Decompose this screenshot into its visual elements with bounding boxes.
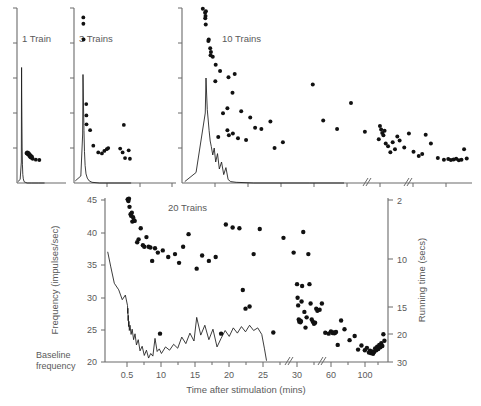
data-point: [429, 141, 433, 145]
data-point: [144, 235, 148, 239]
data-point: [299, 319, 303, 323]
data-point: [402, 145, 406, 149]
xtick-100: 100: [357, 370, 372, 380]
xtick-25: 25: [258, 370, 268, 380]
x-axis-title: Time after stimulation (mins): [186, 384, 305, 395]
panel4-right-y-ticklabels: 2 10 15 20 30: [397, 196, 407, 368]
panel-10-trains: 10 Trains: [178, 7, 472, 187]
rtick-30: 30: [397, 358, 407, 368]
data-point: [224, 222, 228, 226]
data-point: [216, 135, 220, 139]
ytick-35: 35: [87, 260, 97, 270]
data-point: [295, 282, 299, 286]
xtick-0-5: 0.5: [121, 370, 134, 380]
panel4-trace: [108, 252, 267, 361]
data-point: [336, 343, 340, 347]
data-point: [334, 330, 338, 334]
data-point: [237, 226, 241, 230]
data-point: [339, 318, 343, 322]
data-point: [253, 126, 257, 130]
baseline-frequency-label-line1: Baseline: [36, 350, 71, 360]
panel3-scatter: [201, 7, 469, 163]
data-point: [349, 101, 353, 105]
data-point: [207, 38, 211, 42]
ytick-40: 40: [87, 228, 97, 238]
data-point: [243, 306, 247, 310]
panel4-right-y-ticks: [388, 200, 393, 362]
data-point: [122, 123, 126, 127]
data-point: [211, 55, 215, 59]
data-point: [82, 38, 86, 42]
data-point: [442, 158, 446, 162]
data-point: [213, 79, 217, 83]
xtick-60: 60: [326, 370, 336, 380]
data-point: [307, 282, 311, 286]
data-point: [465, 156, 469, 160]
ytick-20: 20: [87, 357, 97, 367]
data-point: [231, 132, 235, 136]
data-point: [281, 236, 285, 240]
data-point: [173, 252, 177, 256]
data-point: [236, 136, 240, 140]
panel4-scatter: [126, 197, 387, 356]
data-point: [128, 157, 132, 161]
data-point: [204, 14, 208, 18]
data-point: [304, 315, 308, 319]
data-point: [436, 156, 440, 160]
data-point: [359, 343, 363, 347]
y-left-axis-title: Frequency (impulses/sec): [49, 226, 60, 335]
data-point: [123, 156, 127, 160]
data-point: [299, 299, 303, 303]
data-point: [225, 128, 229, 132]
data-point: [142, 245, 146, 249]
data-point: [132, 219, 136, 223]
panel1-label: 1 Train: [22, 33, 51, 44]
panel2-trace: [75, 75, 131, 184]
data-point: [88, 128, 92, 132]
data-point: [225, 106, 229, 110]
data-point: [320, 301, 324, 305]
data-point: [268, 120, 272, 124]
data-point: [382, 339, 386, 343]
data-point: [194, 266, 198, 270]
data-point: [391, 140, 395, 144]
data-point: [121, 151, 125, 155]
data-point: [383, 129, 387, 133]
data-point: [301, 230, 305, 234]
data-point: [398, 139, 402, 143]
data-point: [127, 205, 131, 209]
data-point: [273, 146, 277, 150]
data-point: [156, 250, 160, 254]
data-point: [356, 347, 360, 351]
data-point: [219, 331, 223, 335]
data-point: [258, 227, 262, 231]
data-point: [231, 91, 235, 95]
data-point: [462, 147, 466, 151]
data-point: [177, 261, 181, 265]
data-point: [181, 245, 185, 249]
rtick-2: 2: [397, 196, 402, 206]
xtick-10: 10: [156, 370, 166, 380]
frequency-trace-line: [185, 78, 344, 183]
data-point: [300, 284, 304, 288]
data-point: [153, 246, 157, 250]
data-point: [127, 197, 131, 201]
data-point: [342, 327, 346, 331]
data-point: [186, 232, 190, 236]
data-point: [207, 259, 211, 263]
data-point: [296, 303, 300, 307]
data-point: [208, 46, 212, 50]
data-point: [204, 23, 208, 27]
data-point: [34, 158, 38, 162]
data-point: [166, 255, 170, 259]
data-point: [200, 253, 204, 257]
data-point: [424, 133, 428, 137]
frequency-trace-line: [108, 252, 267, 361]
data-point: [227, 133, 231, 137]
xtick-20: 20: [224, 370, 234, 380]
panel2-y-ticks: [70, 8, 74, 148]
data-point: [352, 334, 356, 338]
xtick-15: 15: [190, 370, 200, 380]
data-point: [239, 109, 243, 113]
data-point: [412, 150, 416, 154]
